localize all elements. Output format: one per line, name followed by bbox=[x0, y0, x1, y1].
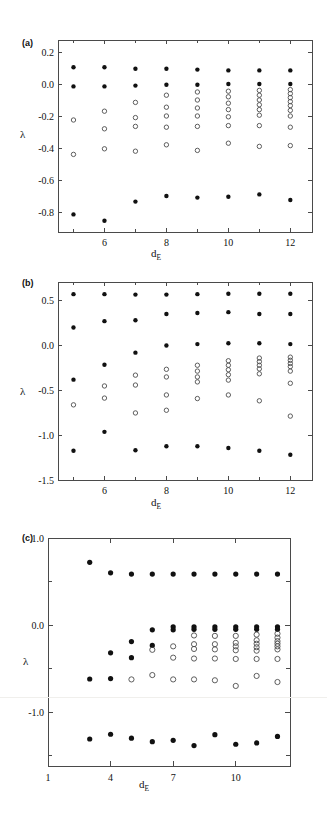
data-point-open bbox=[226, 373, 230, 377]
data-point-filled bbox=[195, 67, 199, 71]
data-point-filled bbox=[275, 734, 280, 739]
data-point-open bbox=[233, 633, 238, 638]
data-point-open bbox=[150, 672, 155, 677]
data-point-filled bbox=[102, 430, 106, 434]
data-point-open bbox=[195, 380, 199, 384]
data-point-open bbox=[226, 101, 230, 105]
data-point-open bbox=[195, 124, 199, 128]
data-point-open bbox=[71, 118, 75, 122]
y-tick-label: 0.0 bbox=[32, 620, 45, 631]
data-point-filled bbox=[257, 312, 261, 316]
data-point-filled bbox=[71, 84, 75, 88]
data-point-open bbox=[226, 359, 230, 363]
data-point-open bbox=[195, 363, 199, 367]
data-point-filled bbox=[87, 736, 92, 741]
data-point-open bbox=[102, 396, 106, 400]
data-point-open bbox=[226, 123, 230, 127]
data-point-open bbox=[195, 98, 199, 102]
y-tick-label: -0.2 bbox=[38, 111, 54, 122]
panel-b: (b) λ dE 0.50.0-0.5-1.0-1.5681012 bbox=[0, 270, 327, 528]
data-point-open bbox=[133, 100, 137, 104]
y-tick-label: -0.5 bbox=[38, 385, 54, 396]
data-point-open bbox=[288, 381, 292, 385]
data-point-filled bbox=[171, 738, 176, 743]
data-point-filled bbox=[164, 312, 168, 316]
data-point-open bbox=[254, 648, 259, 653]
data-point-filled bbox=[195, 342, 199, 346]
data-point-open bbox=[288, 108, 292, 112]
data-point-open bbox=[164, 105, 168, 109]
data-point-open bbox=[288, 414, 292, 418]
data-point-open bbox=[171, 655, 176, 660]
data-point-open bbox=[233, 648, 238, 653]
x-tick-label: 10 bbox=[231, 772, 241, 783]
data-point-filled bbox=[257, 82, 261, 86]
data-point-open bbox=[275, 656, 280, 661]
x-tick-label: 6 bbox=[102, 237, 107, 248]
data-point-open bbox=[71, 403, 75, 407]
y-tick-label: -0.4 bbox=[38, 143, 54, 154]
data-point-open bbox=[164, 125, 168, 129]
data-point-open bbox=[164, 375, 168, 379]
data-point-filled bbox=[150, 739, 155, 744]
data-point-filled bbox=[254, 572, 259, 577]
data-point-open bbox=[212, 642, 217, 647]
data-point-filled bbox=[164, 343, 168, 347]
data-point-open bbox=[257, 107, 261, 111]
data-point-open bbox=[102, 109, 106, 113]
data-point-open bbox=[257, 123, 261, 127]
data-point-open bbox=[257, 399, 261, 403]
data-point-filled bbox=[164, 444, 168, 448]
x-tick-label: 12 bbox=[285, 237, 295, 248]
x-tick-label: 6 bbox=[102, 485, 107, 496]
x-tick-label: 8 bbox=[164, 237, 169, 248]
data-point-filled bbox=[254, 627, 259, 632]
data-point-filled bbox=[226, 68, 230, 72]
y-tick-label: -0.8 bbox=[38, 207, 54, 218]
data-point-filled bbox=[212, 572, 217, 577]
data-point-filled bbox=[102, 65, 106, 69]
data-point-filled bbox=[150, 627, 155, 632]
data-point-open bbox=[171, 677, 176, 682]
data-point-filled bbox=[71, 449, 75, 453]
y-tick-label: 0.0 bbox=[42, 79, 55, 90]
y-tick-label: -1.0 bbox=[38, 430, 54, 441]
data-point-open bbox=[129, 677, 134, 682]
data-point-open bbox=[133, 124, 137, 128]
data-point-filled bbox=[102, 219, 106, 223]
y-tick-label: 0.0 bbox=[42, 340, 55, 351]
data-point-filled bbox=[102, 319, 106, 323]
data-point-open bbox=[191, 677, 196, 682]
data-point-filled bbox=[133, 199, 137, 203]
data-point-open bbox=[191, 633, 196, 638]
data-point-filled bbox=[133, 318, 137, 322]
x-tick-label: 10 bbox=[223, 237, 233, 248]
y-tick-label: 0.2 bbox=[42, 47, 55, 58]
data-point-open bbox=[195, 148, 199, 152]
data-point-open bbox=[254, 632, 259, 637]
data-point-open bbox=[195, 375, 199, 379]
data-point-filled bbox=[257, 192, 261, 196]
data-point-filled bbox=[288, 453, 292, 457]
data-point-filled bbox=[226, 341, 230, 345]
data-point-filled bbox=[257, 68, 261, 72]
data-point-filled bbox=[133, 350, 137, 354]
panel-b-plot: 0.50.0-0.5-1.0-1.5681012 bbox=[0, 270, 327, 528]
data-point-filled bbox=[164, 292, 168, 296]
data-point-filled bbox=[102, 292, 106, 296]
data-point-filled bbox=[212, 627, 217, 632]
data-point-open bbox=[164, 93, 168, 97]
data-point-filled bbox=[133, 67, 137, 71]
data-point-open bbox=[212, 647, 217, 652]
data-point-open bbox=[226, 368, 230, 372]
data-point-filled bbox=[195, 311, 199, 315]
data-point-filled bbox=[257, 449, 261, 453]
data-point-filled bbox=[191, 627, 196, 632]
data-point-filled bbox=[191, 743, 196, 748]
data-point-filled bbox=[254, 740, 259, 745]
data-point-open bbox=[254, 673, 259, 678]
panel-c-plot: 1.00.0-1.014710 bbox=[0, 528, 327, 814]
data-point-filled bbox=[133, 292, 137, 296]
data-point-open bbox=[226, 107, 230, 111]
data-point-filled bbox=[71, 292, 75, 296]
